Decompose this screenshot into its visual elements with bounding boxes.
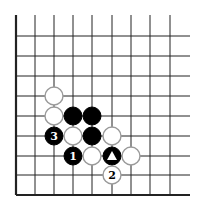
black-stone	[103, 147, 121, 165]
white-stone: 2	[103, 166, 121, 184]
white-stone	[64, 127, 82, 145]
white-stone	[122, 147, 140, 165]
black-stone: 3	[45, 127, 63, 145]
white-stone	[45, 87, 63, 105]
black-stone	[64, 107, 82, 125]
move-number-label: 3	[50, 130, 58, 143]
white-stone	[83, 147, 101, 165]
board-grid	[16, 15, 190, 195]
black-stone	[83, 127, 101, 145]
black-stone	[83, 107, 101, 125]
move-number-label: 1	[69, 150, 77, 163]
black-stone: 1	[64, 147, 82, 165]
go-board: 312	[0, 0, 204, 214]
white-stone	[103, 127, 121, 145]
move-number-label: 2	[108, 169, 116, 182]
white-stone	[45, 107, 63, 125]
